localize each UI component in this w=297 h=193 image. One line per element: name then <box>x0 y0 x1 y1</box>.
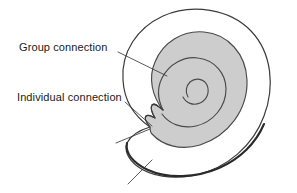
label-individual-connection: Individual connection <box>17 91 122 103</box>
spiral-shell-connection-diagram: Group connection Individual connection <box>0 0 297 193</box>
label-group-connection: Group connection <box>19 41 107 53</box>
